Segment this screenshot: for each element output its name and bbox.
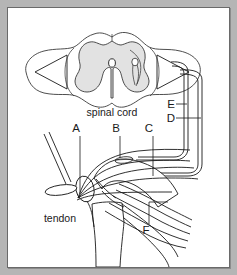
label-C: C <box>145 122 153 134</box>
muscle-belly-outline <box>122 204 178 257</box>
label-D: D <box>167 112 175 124</box>
motor-neuron-cell-body <box>132 58 138 66</box>
femur-bone <box>94 159 178 207</box>
knee-joint-illustration <box>44 132 198 267</box>
label-A: A <box>72 122 80 134</box>
hammer-handle-edge <box>49 132 71 182</box>
figure-page: A B C D E F spinal cord tendon <box>0 0 237 275</box>
hammer-head <box>44 183 77 197</box>
hammer-handle <box>44 134 66 184</box>
tibia-bone <box>92 202 124 267</box>
central-canal-icon <box>109 59 116 67</box>
spinal-cord-cross-section <box>26 32 201 107</box>
label-tendon: tendon <box>44 212 76 224</box>
label-spinal-cord: spinal cord <box>87 106 138 118</box>
figure-frame: A B C D E F spinal cord tendon <box>7 7 230 268</box>
label-E: E <box>167 98 175 110</box>
label-F: F <box>142 224 149 236</box>
reflex-arc-diagram: A B C D E F spinal cord tendon <box>8 8 229 267</box>
label-B: B <box>112 122 120 134</box>
